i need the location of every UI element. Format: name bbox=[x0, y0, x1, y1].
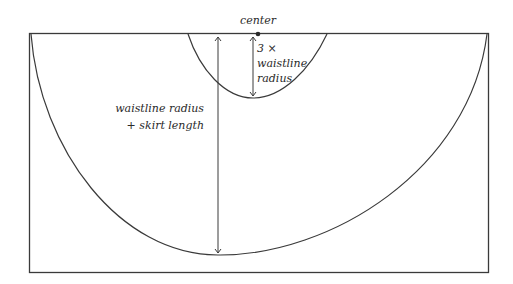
inner-label-line3: radius bbox=[257, 72, 292, 85]
outer-label-line1: waistline radius bbox=[115, 102, 204, 115]
skirt-pattern-diagram: center 3 × waistline radius waistline ra… bbox=[0, 0, 513, 284]
center-point bbox=[256, 32, 261, 37]
inner-label-line2: waistline bbox=[257, 57, 308, 70]
outer-label-line2: + skirt length bbox=[127, 119, 204, 132]
inner-label-line1: 3 × bbox=[257, 42, 277, 55]
center-label: center bbox=[240, 14, 277, 27]
